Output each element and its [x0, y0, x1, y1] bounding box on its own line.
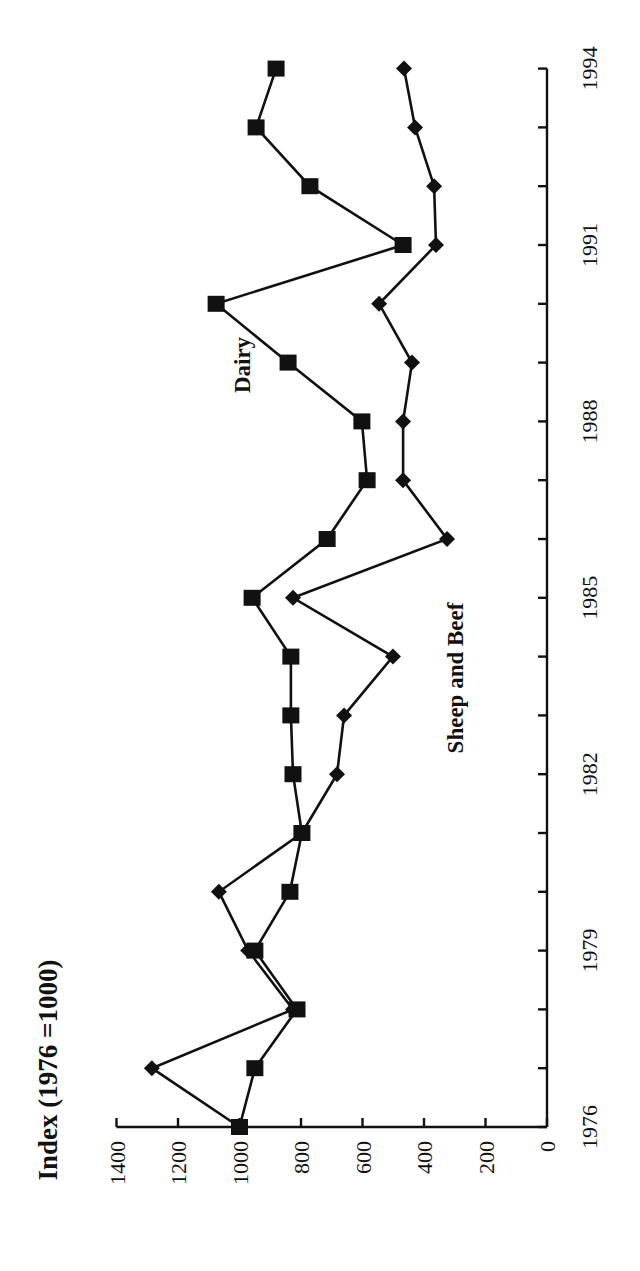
marker-dairy: [268, 61, 285, 77]
marker-sheep-and-beef: [404, 355, 420, 371]
value-tick-label: 1000: [228, 1141, 253, 1185]
marker-sheep-and-beef: [211, 884, 227, 900]
marker-sheep-and-beef: [285, 590, 301, 606]
marker-dairy: [395, 237, 412, 253]
series-label-dairy: Dairy: [230, 336, 255, 393]
marker-sheep-and-beef: [144, 1060, 160, 1076]
marker-dairy: [353, 413, 370, 429]
marker-dairy: [248, 119, 265, 135]
marker-sheep-and-beef: [426, 178, 442, 194]
year-tick-label: 1991: [577, 223, 602, 267]
value-tick-label: 600: [351, 1141, 376, 1174]
year-axis: 1976197919821985198819911994: [538, 47, 602, 1149]
marker-dairy: [359, 472, 376, 488]
chart: 0200400600800100012001400 19761979198219…: [0, 0, 640, 1271]
marker-dairy: [285, 766, 302, 782]
marker-sheep-and-beef: [395, 413, 411, 429]
year-tick-label: 1994: [577, 47, 602, 91]
marker-dairy: [280, 355, 297, 371]
year-tick-label: 1988: [577, 399, 602, 443]
value-axis: 0200400600800100012001400: [105, 1118, 561, 1185]
marker-dairy: [208, 296, 225, 312]
year-tick-label: 1985: [577, 576, 602, 620]
marker-dairy: [244, 590, 261, 606]
year-tick-label: 1979: [577, 929, 602, 973]
marker-dairy: [281, 884, 298, 900]
value-tick-label: 1200: [166, 1141, 191, 1185]
series-label-sheep-and-beef: Sheep and Beef: [443, 602, 468, 753]
marker-sheep-and-beef: [329, 766, 345, 782]
value-tick-label: 800: [289, 1141, 314, 1174]
marker-dairy: [246, 1060, 263, 1076]
chart-title: Index (1976 =1000): [33, 960, 63, 1181]
value-tick-label: 400: [412, 1141, 437, 1174]
marker-dairy: [282, 649, 299, 665]
value-tick-label: 200: [474, 1141, 499, 1174]
value-tick-label: 1400: [105, 1141, 130, 1185]
year-tick-label: 1982: [577, 752, 602, 796]
value-tick-label: 0: [535, 1141, 560, 1152]
marker-dairy: [301, 178, 318, 194]
plot-markers: [144, 61, 455, 1135]
marker-sheep-and-beef: [407, 119, 423, 135]
marker-dairy: [282, 707, 299, 723]
marker-sheep-and-beef: [396, 61, 412, 77]
year-tick-label: 1976: [577, 1105, 602, 1149]
marker-dairy: [319, 531, 336, 547]
